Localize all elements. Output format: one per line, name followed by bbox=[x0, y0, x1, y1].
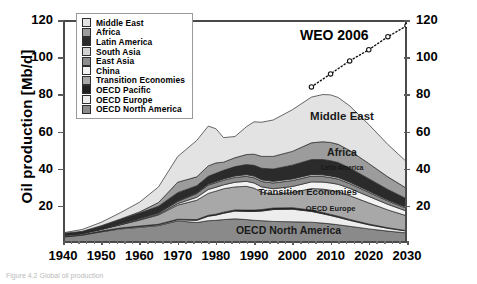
x-tick-2030 bbox=[407, 241, 409, 245]
y-tick-label-right-100: 100 bbox=[416, 49, 456, 64]
figure-container: Oil production [Mb/d] 202040406060808010… bbox=[0, 0, 477, 284]
y-tick-label-left-40: 40 bbox=[19, 161, 53, 176]
chart-legend: Middle EastAfricaLatin AmericaSouth Asia… bbox=[76, 13, 193, 119]
weo-marker-2030 bbox=[405, 23, 407, 27]
legend-swatch-icon bbox=[82, 105, 91, 114]
x-tick-label-2030: 2030 bbox=[384, 248, 430, 263]
legend-swatch-icon bbox=[82, 57, 91, 66]
y-tick-label-left-20: 20 bbox=[19, 198, 53, 213]
y-tick-label-left-80: 80 bbox=[19, 86, 53, 101]
legend-item-transition-economies[interactable]: Transition Economies bbox=[82, 76, 185, 86]
legend-item-label: Latin America bbox=[96, 37, 152, 47]
legend-item-middle-east[interactable]: Middle East bbox=[82, 18, 185, 28]
figure-caption: Figure 4.2 Global oil production bbox=[6, 272, 103, 279]
legend-item-south-asia[interactable]: South Asia bbox=[82, 47, 185, 57]
weo-2006-annotation-label: WEO 2006 bbox=[300, 27, 368, 43]
y-tick-label-right-120: 120 bbox=[416, 12, 456, 27]
legend-item-label: OECD Pacific bbox=[96, 85, 151, 95]
legend-swatch-icon bbox=[82, 18, 91, 27]
y-tick-label-right-20: 20 bbox=[416, 198, 456, 213]
legend-item-oecd-north-america[interactable]: OECD North America bbox=[82, 104, 185, 114]
legend-item-label: Africa bbox=[96, 27, 120, 37]
legend-item-africa[interactable]: Africa bbox=[82, 28, 185, 38]
legend-item-label: China bbox=[96, 66, 120, 76]
weo-marker-2010 bbox=[328, 72, 332, 76]
weo-marker-2005 bbox=[309, 85, 313, 89]
y-tick-label-right-80: 80 bbox=[416, 86, 456, 101]
y-tick-label-left-120: 120 bbox=[19, 12, 53, 27]
legend-item-oecd-europe[interactable]: OECD Europe bbox=[82, 95, 185, 105]
legend-item-label: Transition Economies bbox=[96, 75, 185, 85]
weo-marker-2025 bbox=[386, 35, 390, 39]
legend-item-china[interactable]: China bbox=[82, 66, 185, 76]
weo-marker-2015 bbox=[347, 59, 351, 63]
y-tick-label-left-100: 100 bbox=[19, 49, 53, 64]
legend-item-label: South Asia bbox=[96, 47, 140, 57]
y-tick-label-right-60: 60 bbox=[416, 124, 456, 139]
weo-marker-2020 bbox=[367, 48, 371, 52]
legend-item-label: East Asia bbox=[96, 56, 134, 66]
legend-swatch-icon bbox=[82, 47, 91, 56]
legend-swatch-icon bbox=[82, 85, 91, 94]
y-tick-label-left-60: 60 bbox=[19, 124, 53, 139]
legend-item-label: OECD Europe bbox=[96, 95, 152, 105]
legend-swatch-icon bbox=[82, 28, 91, 37]
legend-swatch-icon bbox=[82, 95, 91, 104]
legend-swatch-icon bbox=[82, 37, 91, 46]
legend-swatch-icon bbox=[82, 66, 91, 75]
legend-item-label: Middle East bbox=[96, 18, 144, 28]
legend-item-east-asia[interactable]: East Asia bbox=[82, 56, 185, 66]
legend-item-latin-america[interactable]: Latin America bbox=[82, 37, 185, 47]
legend-swatch-icon bbox=[82, 76, 91, 85]
legend-item-oecd-pacific[interactable]: OECD Pacific bbox=[82, 85, 185, 95]
y-tick-label-right-40: 40 bbox=[416, 161, 456, 176]
legend-item-label: OECD North America bbox=[96, 104, 182, 114]
